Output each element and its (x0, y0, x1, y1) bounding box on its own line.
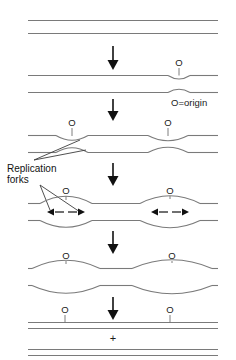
callout-leader-upper (34, 140, 80, 160)
origin-label-left: O (68, 117, 75, 128)
replication-bubble-upper-arc (168, 76, 190, 80)
replication-bubble-left-lower-arc (32, 286, 100, 294)
origin-label: O (175, 57, 182, 68)
replication-diagram: O O=origin O O (0, 0, 236, 360)
fork-direction-arrows-right (151, 209, 189, 216)
stage-arrow-2 (108, 99, 119, 121)
stage-arrow-4 (108, 231, 119, 254)
replication-bubble-lower-arc (168, 89, 190, 92)
replication-forks-label-line1: Replication (7, 163, 56, 174)
stage-1-unreplicated (28, 21, 218, 34)
fork-direction-arrows-left (47, 209, 85, 216)
origin-label-left: O (62, 185, 69, 196)
origin-label-right: O (168, 250, 175, 261)
stage-arrow-3 (108, 163, 119, 186)
replication-bubble-left-upper-arc (56, 136, 88, 141)
origin-legend: O=origin (171, 97, 207, 108)
stage-3-two-bubbles: O O (28, 117, 218, 160)
origin-label-right: O (166, 304, 173, 315)
stage-6-separated: O O + (28, 304, 218, 356)
replication-bubble-right-lower-arc (148, 147, 188, 152)
callout-leader-upper-2 (34, 150, 86, 160)
origin-label-left: O (61, 304, 68, 315)
callout-leader-lower-1 (40, 185, 80, 212)
stage-2-initiation: O (28, 57, 218, 93)
origin-label-right: O (166, 185, 173, 196)
callout-leader-lower-group (40, 185, 80, 212)
replication-forks-label-line2: forks (7, 174, 29, 185)
stage-arrow-5 (108, 297, 119, 320)
replication-bubble-left-lower-arc (40, 221, 92, 228)
origin-label-right: O (164, 117, 171, 128)
stage-4-forks-moving: O O (28, 185, 218, 228)
plus-sign: + (110, 332, 116, 344)
stage-arrow-1 (108, 46, 119, 70)
stage-5-large-bubbles: O O (28, 250, 218, 294)
replication-bubble-right-upper-arc (148, 136, 188, 141)
replication-bubble-right-lower-arc (140, 221, 200, 228)
origin-label-left: O (62, 250, 69, 261)
replication-bubble-right-lower-arc (132, 286, 212, 294)
